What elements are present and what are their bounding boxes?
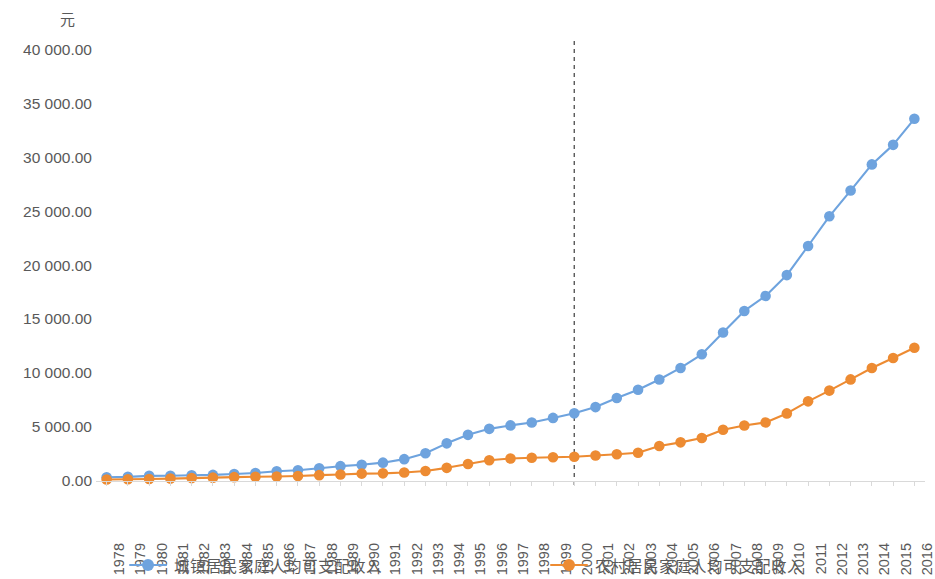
y-axis-tick-label: 35 000.00 (0, 95, 92, 113)
x-axis-tick (276, 481, 277, 486)
data-point[interactable] (782, 408, 793, 419)
x-axis-tick (191, 481, 192, 486)
x-axis-tick (255, 481, 256, 486)
legend-marker-icon (550, 558, 588, 572)
data-point[interactable] (824, 385, 835, 396)
data-point[interactable] (803, 241, 814, 252)
data-point[interactable] (633, 384, 644, 395)
data-point[interactable] (441, 463, 452, 474)
x-axis-tick (297, 481, 298, 486)
x-axis-tick (850, 481, 851, 486)
data-point[interactable] (399, 467, 410, 478)
x-axis-tick (106, 481, 107, 486)
data-point[interactable] (378, 468, 389, 479)
data-point[interactable] (463, 459, 474, 470)
x-axis-tick (659, 481, 660, 486)
x-axis-tick (446, 481, 447, 486)
x-axis-tick (595, 481, 596, 486)
data-point[interactable] (463, 430, 474, 441)
data-point[interactable] (654, 441, 665, 452)
x-axis-tick (871, 481, 872, 486)
x-axis-tick (212, 481, 213, 486)
data-point[interactable] (569, 408, 580, 419)
y-axis-tick-label: 20 000.00 (0, 257, 92, 275)
data-point[interactable] (867, 159, 878, 170)
data-point[interactable] (505, 420, 516, 431)
legend-label: 农村居民家庭人均可支配收入 (595, 554, 803, 576)
data-point[interactable] (697, 349, 708, 360)
data-point[interactable] (675, 363, 686, 374)
legend-item[interactable]: 农村居民家庭人均可支配收入 (550, 554, 803, 576)
legend-label: 城镇居民家庭人均可支配收入 (174, 554, 382, 576)
x-axis-tick (170, 481, 171, 486)
data-point[interactable] (293, 471, 304, 482)
y-axis: 0.005 000.0010 000.0015 000.0020 000.002… (0, 0, 92, 579)
x-axis-tick (489, 481, 490, 486)
y-axis-tick-label: 0.00 (0, 472, 92, 490)
data-point[interactable] (697, 433, 708, 444)
data-point[interactable] (739, 306, 750, 317)
x-axis-tick (680, 481, 681, 486)
x-axis-tick (234, 481, 235, 486)
y-axis-tick-label: 15 000.00 (0, 310, 92, 328)
data-point[interactable] (888, 140, 899, 151)
data-point[interactable] (611, 393, 622, 404)
x-axis-tick (149, 481, 150, 486)
data-point[interactable] (356, 468, 367, 479)
x-axis-tick (425, 481, 426, 486)
x-axis-tick (786, 481, 787, 486)
data-point[interactable] (909, 113, 920, 124)
legend-item[interactable]: 城镇居民家庭人均可支配收入 (129, 554, 382, 576)
data-point[interactable] (590, 402, 601, 413)
data-point[interactable] (675, 437, 686, 448)
data-point[interactable] (888, 353, 899, 364)
data-point[interactable] (420, 466, 431, 477)
data-point[interactable] (526, 452, 537, 463)
series-canvas (96, 50, 925, 481)
data-point[interactable] (378, 457, 389, 468)
data-point[interactable] (505, 453, 516, 464)
x-axis-tick (467, 481, 468, 486)
data-point[interactable] (824, 211, 835, 222)
data-point[interactable] (633, 447, 644, 458)
x-axis-tick (340, 481, 341, 486)
y-axis-tick-label: 25 000.00 (0, 203, 92, 221)
data-point[interactable] (909, 342, 920, 353)
data-point[interactable] (569, 451, 580, 462)
series-rural (101, 342, 919, 484)
data-point[interactable] (314, 470, 325, 481)
x-axis-tick (723, 481, 724, 486)
data-point[interactable] (420, 448, 431, 459)
plot-area (96, 50, 925, 481)
x-axis-tick (893, 481, 894, 486)
data-point[interactable] (739, 420, 750, 431)
data-point[interactable] (845, 374, 856, 385)
data-point[interactable] (654, 374, 665, 385)
data-point[interactable] (441, 438, 452, 449)
x-axis-tick (914, 481, 915, 486)
x-axis-tick (638, 481, 639, 486)
data-point[interactable] (718, 424, 729, 435)
data-point[interactable] (484, 424, 495, 435)
data-point[interactable] (867, 363, 878, 374)
data-point[interactable] (548, 413, 559, 424)
data-point[interactable] (590, 450, 601, 461)
data-point[interactable] (399, 454, 410, 465)
data-point[interactable] (718, 327, 729, 338)
x-axis-tick (616, 481, 617, 486)
x-axis-tick (808, 481, 809, 486)
data-point[interactable] (803, 396, 814, 407)
data-point[interactable] (484, 455, 495, 466)
data-point[interactable] (335, 469, 346, 480)
data-point[interactable] (548, 452, 559, 463)
y-axis-tick-label: 5 000.00 (0, 418, 92, 436)
data-point[interactable] (526, 417, 537, 428)
data-point[interactable] (760, 291, 771, 302)
data-point[interactable] (760, 417, 771, 428)
data-point[interactable] (611, 449, 622, 460)
data-point[interactable] (845, 185, 856, 196)
x-axis-tick (404, 481, 405, 486)
data-point[interactable] (782, 270, 793, 281)
series-urban (101, 113, 919, 482)
